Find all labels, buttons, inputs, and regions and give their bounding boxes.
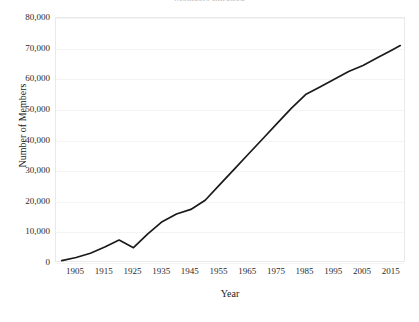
x-axis-tick-label: 2015 [382,266,400,276]
x-axis-tick-label: 1935 [152,266,170,276]
x-axis-tick-label: 1995 [324,266,342,276]
x-axis-tick-label: 1915 [95,266,113,276]
x-axis-tick-label: 1925 [123,266,141,276]
x-axis-title: Year [55,288,405,299]
x-axis-tick-label: 1965 [238,266,256,276]
x-axis-tick-label: 1985 [296,266,314,276]
y-axis-tick-label: 80,000 [0,13,50,22]
y-axis-tick-label: 20,000 [0,197,50,206]
y-axis-tick-label: 10,000 [0,227,50,236]
x-axis-tick-label: 2005 [353,266,371,276]
y-axis-title: Number of Members [17,66,28,186]
x-axis-tick-label: 1945 [181,266,199,276]
x-axis-tick-label: 1905 [66,266,84,276]
y-axis-tick-label: 70,000 [0,44,50,53]
chart-figure: Members Enrolled 010,00020,00030,00040,0… [0,0,419,322]
x-axis-tick-label: 1975 [267,266,285,276]
x-axis-tick-labels: 1905191519251935194519551965197519851995… [0,266,419,280]
x-axis-tick-label: 1955 [210,266,228,276]
